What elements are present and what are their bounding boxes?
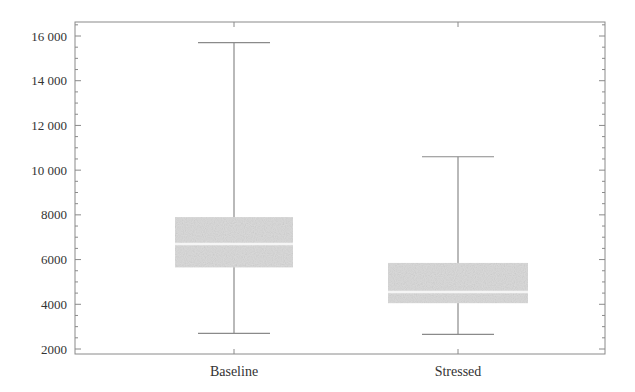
y-tick-label: 8000 [41, 207, 67, 222]
y-tick-label: 12 000 [31, 118, 67, 133]
y-tick-label: 14 000 [31, 73, 67, 88]
boxes [175, 43, 528, 335]
y-tick-label: 4000 [41, 297, 67, 312]
y-axis-right-ticks [599, 25, 605, 349]
y-tick-label: 2000 [41, 342, 67, 357]
box-baseline [175, 43, 293, 334]
box-stressed [388, 157, 528, 335]
y-tick-label: 10 000 [31, 163, 67, 178]
x-axis: BaselineStressed [210, 22, 481, 379]
box-plot-chart: 200040006000800010 00012 00014 00016 000… [0, 0, 635, 392]
y-tick-label: 16 000 [31, 29, 67, 44]
x-category-label: Stressed [435, 364, 482, 379]
iqr-box [175, 217, 293, 267]
plot-frame [75, 22, 605, 354]
iqr-box [388, 263, 528, 303]
y-axis: 200040006000800010 00012 00014 00016 000 [31, 25, 81, 357]
y-tick-label: 6000 [41, 252, 67, 267]
x-category-label: Baseline [210, 364, 258, 379]
